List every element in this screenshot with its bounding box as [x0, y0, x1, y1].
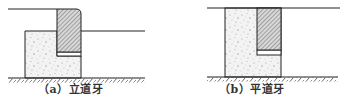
curb-stone: [257, 8, 281, 50]
caption-flat-curb: （b）平道牙: [219, 80, 285, 96]
mortar-bed: [257, 50, 281, 55]
panel-b-flat-curb: [207, 8, 340, 82]
panel-a-upright-curb: [8, 9, 145, 83]
mortar-bed: [57, 52, 81, 56]
caption-upright-curb: （a）立道牙: [38, 80, 103, 96]
curb-stone: [57, 9, 81, 52]
